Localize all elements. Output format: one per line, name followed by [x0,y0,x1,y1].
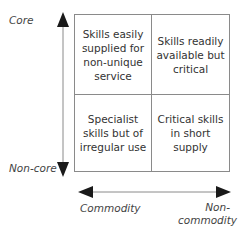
y-axis-top-label: Core [9,14,34,26]
x-axis-right-label: Non- commodity [178,201,230,227]
arrow-up-icon [57,12,69,27]
arrow-left-icon [78,186,93,198]
x-axis-left-label: Commodity [80,202,141,214]
quadrant-top-left: Skills easily supplied for non-unique se… [75,15,151,94]
quadrant-bottom-right: Critical skills in short supply [152,95,229,171]
quadrant-bottom-left: Specialist skills but of irregular use [75,95,151,171]
arrow-right-icon [216,186,231,198]
arrow-down-icon [57,162,69,177]
y-axis-bottom-label: Non-core [9,162,57,174]
skills-matrix: Skills easily supplied for non-unique se… [74,14,230,172]
quadrant-top-right: Skills readily available but critical [152,15,229,94]
